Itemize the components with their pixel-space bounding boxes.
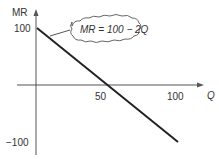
x-tick-100: 100 bbox=[167, 91, 184, 102]
y-axis-arrow-icon bbox=[34, 9, 39, 16]
callout-connector bbox=[50, 30, 70, 36]
y-axis-label: MR bbox=[12, 7, 28, 18]
x-axis-arrow-icon bbox=[197, 83, 204, 88]
mr-chart: MR = 100 − 2Q MR Q 100 −100 50 100 bbox=[0, 0, 219, 159]
y-tick-100: 100 bbox=[14, 23, 31, 34]
y-tick-neg100: −100 bbox=[6, 137, 29, 148]
callout-text: MR = 100 − 2Q bbox=[80, 24, 149, 35]
x-axis-label: Q bbox=[207, 90, 215, 101]
x-tick-50: 50 bbox=[95, 91, 107, 102]
